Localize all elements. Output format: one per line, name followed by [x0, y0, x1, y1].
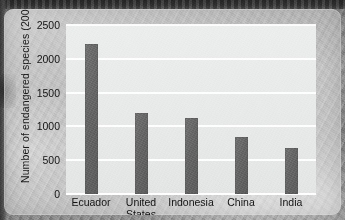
bar-chart: Number of endangered species (2009) 0500…: [4, 9, 341, 215]
bar[interactable]: [285, 148, 298, 194]
y-axis-tick-label: 2500: [37, 19, 60, 31]
category-label-line: States: [106, 209, 176, 216]
gridline: [66, 24, 316, 26]
category-label-line: India: [256, 197, 326, 209]
x-axis-category-label: India: [256, 197, 326, 209]
y-axis-tick-label: 1500: [37, 87, 60, 99]
y-axis-tick-label: 2000: [37, 53, 60, 65]
bar[interactable]: [135, 113, 148, 194]
y-axis-label: Number of endangered species (2009): [19, 23, 31, 183]
bar[interactable]: [185, 118, 198, 194]
gridline: [66, 58, 316, 60]
plot-area: 05001000150020002500EcuadorUnitedStatesI…: [66, 25, 316, 194]
y-axis-tick-label: 1000: [37, 120, 60, 132]
gridline: [66, 92, 316, 94]
top-dark-band: [0, 0, 345, 9]
chart-card: Number of endangered species (2009) 0500…: [4, 9, 341, 215]
bar[interactable]: [85, 44, 98, 194]
y-axis-tick-label: 500: [42, 154, 60, 166]
bar[interactable]: [235, 137, 248, 194]
